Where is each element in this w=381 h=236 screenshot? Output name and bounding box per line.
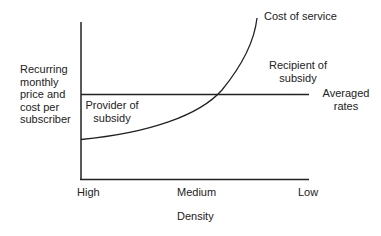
provider-line-1: Provider of xyxy=(84,99,140,112)
x-tick-medium: Medium xyxy=(177,186,216,199)
recipient-line-1: Recipient of xyxy=(260,59,336,72)
y-axis-label-line-2: monthly xyxy=(20,76,71,89)
averaged-rates-line-1: Averaged xyxy=(316,87,376,100)
provider-line-2: subsidy xyxy=(84,112,140,125)
x-tick-low: Low xyxy=(298,186,318,199)
x-axis-label: Density xyxy=(177,210,214,223)
y-axis-label-line-3: price and xyxy=(20,88,71,101)
y-axis-label: Recurring monthly price and cost per sub… xyxy=(20,63,71,126)
recipient-of-subsidy-label: Recipient of subsidy xyxy=(260,59,336,85)
recipient-line-2: subsidy xyxy=(260,72,336,85)
averaged-rates-line-2: rates xyxy=(316,100,376,113)
cost-of-service-label: Cost of service xyxy=(264,10,337,23)
y-axis-label-line-1: Recurring xyxy=(20,63,71,76)
averaged-rates-label: Averaged rates xyxy=(316,87,376,113)
y-axis-label-line-4: cost per xyxy=(20,101,71,114)
y-axis-label-line-5: subscriber xyxy=(20,113,71,126)
provider-of-subsidy-label: Provider of subsidy xyxy=(84,99,140,125)
x-tick-high: High xyxy=(77,186,100,199)
